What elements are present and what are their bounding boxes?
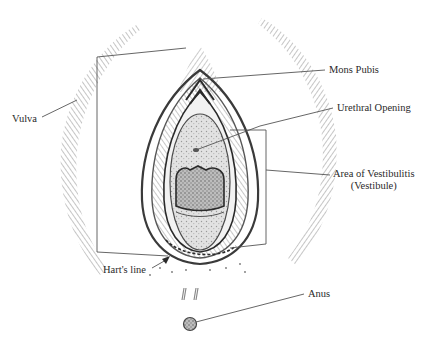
label-anus: Anus xyxy=(308,288,330,300)
label-vestibulitis-line2: (Vestibule) xyxy=(333,180,414,192)
vaginal-opening xyxy=(176,166,224,211)
perineum-dots xyxy=(149,263,246,276)
anus-leader xyxy=(196,294,304,322)
label-vulva: Vulva xyxy=(12,113,37,125)
harts-arrowhead xyxy=(162,256,170,264)
label-mons-pubis: Mons Pubis xyxy=(329,64,379,76)
label-vestibulitis: Area of Vestibulitis (Vestibule) xyxy=(333,168,414,192)
label-harts-line: Hart's line xyxy=(103,264,146,276)
perineal-marks xyxy=(182,288,198,300)
vestibule-leader xyxy=(266,170,330,175)
label-urethral-opening: Urethral Opening xyxy=(337,102,411,114)
right-outer-hatching xyxy=(258,18,337,265)
vulva-bracket-bottom xyxy=(97,252,168,256)
left-outer-hatching xyxy=(61,24,140,275)
anus-shape xyxy=(184,318,197,331)
label-vestibulitis-line1: Area of Vestibulitis xyxy=(333,168,414,180)
